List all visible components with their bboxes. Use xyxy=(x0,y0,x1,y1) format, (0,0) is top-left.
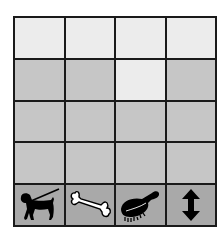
cell-r1-c4[interactable] xyxy=(167,18,216,58)
up-down-arrow-icon xyxy=(169,187,213,223)
cell-r2-c2[interactable] xyxy=(66,60,115,100)
cell-r3-c4[interactable] xyxy=(167,102,216,142)
dog-walk-button[interactable] xyxy=(15,185,64,225)
cell-r2-c1[interactable] xyxy=(15,60,64,100)
cell-r1-c1[interactable] xyxy=(15,18,64,58)
cell-r4-c4[interactable] xyxy=(167,143,216,183)
game-board xyxy=(13,16,217,227)
cell-r3-c2[interactable] xyxy=(66,102,115,142)
cell-r1-c3[interactable] xyxy=(116,18,165,58)
bone-icon xyxy=(68,187,112,223)
cell-r2-c4[interactable] xyxy=(167,60,216,100)
cell-r4-c2[interactable] xyxy=(66,143,115,183)
cell-r3-c3[interactable] xyxy=(116,102,165,142)
move-button[interactable] xyxy=(167,185,216,225)
cell-r4-c1[interactable] xyxy=(15,143,64,183)
brush-icon xyxy=(118,187,162,223)
dog-on-leash-icon xyxy=(17,187,61,223)
cell-r1-c2[interactable] xyxy=(66,18,115,58)
bone-button[interactable] xyxy=(66,185,115,225)
cell-r3-c1[interactable] xyxy=(15,102,64,142)
brush-button[interactable] xyxy=(116,185,165,225)
cell-r2-c3[interactable] xyxy=(116,60,165,100)
cell-r4-c3[interactable] xyxy=(116,143,165,183)
